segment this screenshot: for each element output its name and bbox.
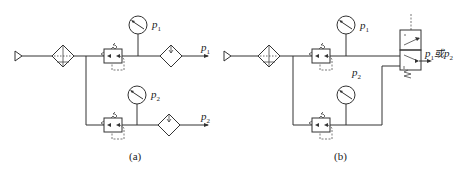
output-2-label: p2 bbox=[200, 110, 211, 125]
gauge-2-label: p2 bbox=[351, 66, 362, 81]
pneumatic-diagram: p1 p1 p2 p2 (a) bbox=[0, 0, 463, 173]
panel-b: p1 p2 bbox=[224, 14, 454, 163]
pressure-gauge-2-icon bbox=[337, 86, 355, 104]
lubricator-2-icon bbox=[158, 114, 180, 136]
gauge-1-label: p1 bbox=[151, 18, 162, 33]
pressure-regulator-1-icon bbox=[101, 43, 124, 70]
pressure-gauge-1-icon bbox=[129, 16, 147, 34]
filter-icon bbox=[258, 45, 280, 67]
panel-a-caption: (a) bbox=[129, 150, 142, 163]
pressure-regulator-1-icon bbox=[309, 43, 332, 70]
output-1-label: p1 bbox=[200, 41, 211, 56]
air-source-icon bbox=[224, 51, 231, 61]
air-source-icon bbox=[15, 51, 22, 61]
panel-a: p1 p1 p2 p2 (a) bbox=[15, 16, 211, 163]
filter-icon bbox=[52, 45, 74, 67]
pressure-regulator-2-icon bbox=[101, 112, 124, 139]
lubricator-1-icon bbox=[160, 45, 182, 67]
directional-valve-icon bbox=[400, 14, 432, 78]
pressure-regulator-2-icon bbox=[309, 112, 332, 139]
pressure-gauge-1-icon bbox=[337, 16, 355, 34]
pressure-gauge-2-icon bbox=[128, 86, 146, 104]
gauge-1-label: p1 bbox=[359, 19, 370, 34]
gauge-2-label: p2 bbox=[150, 88, 161, 103]
panel-b-caption: (b) bbox=[334, 150, 347, 163]
